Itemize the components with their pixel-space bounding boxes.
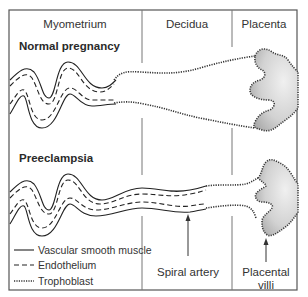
normal-spiral-artery <box>10 56 255 128</box>
placental-villi-arrow <box>264 238 269 262</box>
svg-text:Endothelium: Endothelium <box>38 259 97 271</box>
callout-placental-villi-line2: villi <box>258 279 274 291</box>
region-label-placenta: Placenta <box>242 18 287 30</box>
svg-text:Trophoblast: Trophoblast <box>38 275 93 287</box>
preeclampsia-spiral-artery <box>10 174 258 236</box>
legend-item-trophoblast: Trophoblast <box>14 275 93 287</box>
legend: Vascular smooth muscle Endothelium Troph… <box>14 244 152 287</box>
condition-title-normal: Normal pregnancy <box>19 40 121 52</box>
condition-title-preeclampsia: Preeclampsia <box>19 152 94 164</box>
placental-villi-normal <box>250 49 298 131</box>
placental-villi-preeclampsia <box>255 160 298 236</box>
region-label-decidua: Decidua <box>166 18 209 30</box>
callout-spiral-artery: Spiral artery <box>157 266 219 278</box>
region-label-myometrium: Myometrium <box>43 18 106 30</box>
legend-item-endothelium: Endothelium <box>14 259 97 271</box>
svg-text:Vascular smooth muscle: Vascular smooth muscle <box>38 244 152 256</box>
spiral-artery-remodeling-diagram: Myometrium Decidua Placenta Normal pregn… <box>0 0 308 297</box>
callout-placental-villi-line1: Placental <box>242 266 289 278</box>
legend-item-smooth-muscle: Vascular smooth muscle <box>14 244 152 256</box>
region-dividers <box>142 10 232 290</box>
spiral-artery-arrow <box>186 214 191 256</box>
